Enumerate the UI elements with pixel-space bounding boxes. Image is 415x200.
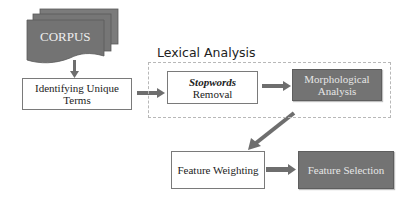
arrow-right-icon: [266, 164, 296, 175]
lexical-analysis-title: Lexical Analysis: [157, 45, 256, 60]
stopwords-label: Stopwords: [189, 76, 236, 88]
arrow-down-icon: [70, 60, 79, 78]
feature-weighting-label: Feature Weighting: [177, 164, 258, 176]
feature-selection-label: Feature Selection: [308, 164, 385, 176]
feature-weighting-box: Feature Weighting: [171, 151, 265, 189]
identify-unique-terms-box: Identifying Unique Terms: [22, 78, 132, 110]
morphological-analysis-box: Morphological Analysis: [292, 69, 382, 101]
identify-label-line1: Identifying Unique: [35, 82, 119, 94]
morph-label-line1: Morphological: [304, 73, 369, 85]
feature-selection-box: Feature Selection: [298, 151, 394, 189]
corpus-label: CORPUS: [40, 29, 91, 45]
stopwords-removal-box: Stopwords Removal: [167, 71, 258, 104]
arrow-diagonal-icon: [248, 113, 294, 150]
identify-label-line2: Terms: [63, 94, 90, 106]
morph-label-line2: Analysis: [318, 85, 357, 97]
removal-label: Removal: [193, 88, 233, 100]
